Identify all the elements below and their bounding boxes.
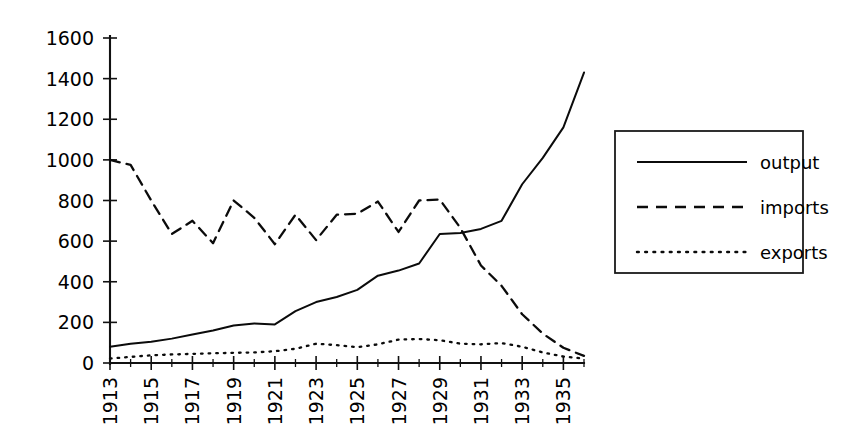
series-line-exports [110, 339, 584, 359]
line-chart-figure: 02004006008001000120014001600 1913191519… [0, 0, 841, 444]
y-tick-label: 600 [58, 230, 94, 252]
x-axis-tick-labels: 1913191519171919192119231925192719291931… [99, 377, 574, 425]
y-tick-label: 200 [58, 311, 94, 333]
x-tick-label: 1913 [99, 377, 121, 425]
y-tick-label: 400 [58, 271, 94, 293]
y-tick-label: 1600 [46, 27, 94, 49]
y-tick-label: 1200 [46, 108, 94, 130]
x-tick-label: 1921 [264, 377, 286, 425]
x-tick-label: 1933 [511, 377, 533, 425]
x-tick-label: 1935 [552, 377, 574, 425]
x-tick-label: 1927 [388, 377, 410, 425]
series-line-imports [110, 160, 584, 356]
y-tick-label: 800 [58, 190, 94, 212]
y-tick-label: 1000 [46, 149, 94, 171]
y-tick-label: 0 [82, 352, 94, 374]
x-tick-label: 1923 [305, 377, 327, 425]
y-tick-label: 1400 [46, 68, 94, 90]
x-tick-label: 1915 [140, 377, 162, 425]
x-tick-label: 1931 [470, 377, 492, 425]
legend-label-exports: exports [760, 242, 828, 263]
legend: outputimportsexports [615, 131, 829, 273]
x-tick-label: 1929 [429, 377, 451, 425]
chart-canvas: 02004006008001000120014001600 1913191519… [0, 0, 841, 444]
x-tick-label: 1925 [346, 377, 368, 425]
legend-label-imports: imports [760, 197, 829, 218]
data-series-group [110, 73, 584, 359]
y-axis-tick-labels: 02004006008001000120014001600 [46, 27, 94, 374]
x-tick-label: 1919 [223, 377, 245, 425]
series-line-output [110, 73, 584, 347]
legend-label-output: output [760, 152, 819, 173]
x-tick-label: 1917 [181, 377, 203, 425]
